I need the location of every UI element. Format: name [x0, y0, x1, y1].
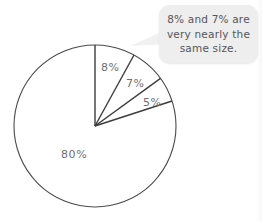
figure-canvas: 8% 7% 5% 80% 8% and 7% are very nearly t… — [0, 0, 262, 221]
pie-slice-label-1: 8% — [101, 61, 120, 74]
callout-text: 8% and 7% are very nearly the same size. — [159, 12, 258, 56]
callout-bubble: 8% and 7% are very nearly the same size. — [159, 5, 258, 63]
pie-slice-label-4: 80% — [61, 148, 87, 161]
pie-slice-label-3: 5% — [143, 96, 162, 109]
pie-slice-label-2: 7% — [126, 77, 145, 90]
